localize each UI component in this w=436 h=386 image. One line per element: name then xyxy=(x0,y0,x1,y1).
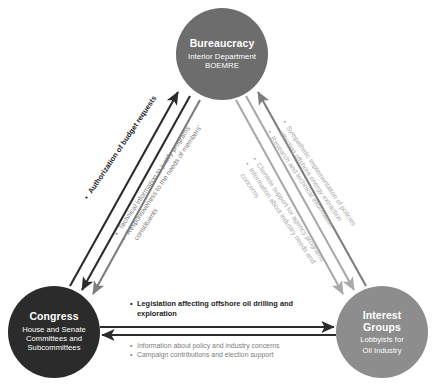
node-congress-subtitle-3: Subcommittees xyxy=(28,343,81,352)
node-bureaucracy-subtitle-2: BOEMRE xyxy=(205,61,239,70)
node-congress[interactable]: Congress House and Senate Committees and… xyxy=(8,286,100,378)
node-congress-title: Congress xyxy=(29,311,78,323)
node-bureaucracy-title: Bureaucracy xyxy=(190,38,255,50)
annotation-item: Information about policy and industry co… xyxy=(130,341,280,350)
node-interest-groups-subtitle-2: Oil Industry xyxy=(362,346,401,355)
annotation-interest-to-congress: Information about policy and industry co… xyxy=(130,341,280,360)
annotation-item-continuation: exploration xyxy=(130,309,317,319)
node-congress-subtitle-2: Committees and xyxy=(26,334,82,343)
annotation-item: Legislation affecting offshore oil drill… xyxy=(130,299,317,309)
annotation-item: Campaign contributions and election supp… xyxy=(130,350,280,359)
node-interest-groups-title-1: Interest xyxy=(363,309,402,321)
iron-triangle-diagram: Bureaucracy Interior Department BOEMRE C… xyxy=(0,0,436,386)
node-bureaucracy-subtitle-1: Interior Department xyxy=(188,52,256,61)
node-congress-subtitle-1: House and Senate xyxy=(22,325,86,334)
node-interest-groups-subtitle-1: Lobbyists for xyxy=(360,335,404,344)
annotation-congress-to-interest: Legislation affecting offshore oil drill… xyxy=(130,299,317,319)
node-bureaucracy[interactable]: Bureaucracy Interior Department BOEMRE xyxy=(176,8,268,100)
node-interest-groups-title-2: Groups xyxy=(363,321,401,333)
node-interest-groups[interactable]: Interest Groups Lobbyists for Oil Indust… xyxy=(336,286,428,378)
